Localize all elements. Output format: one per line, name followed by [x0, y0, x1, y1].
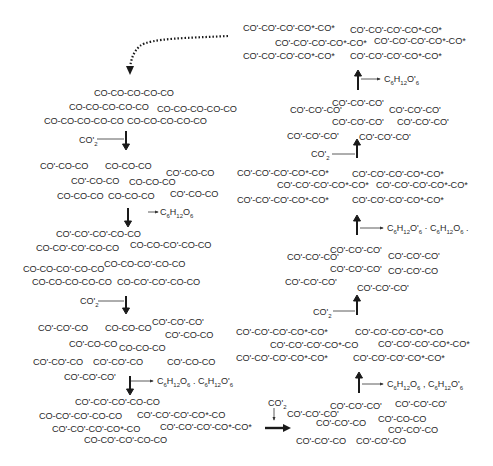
chain: CO'-CO'-CO': [64, 372, 116, 382]
chain: CO-CO-CO: [105, 323, 152, 333]
chain: CO-CO-CO-CO-CO: [32, 277, 112, 287]
chain: CO'-CO'-CO'-CO*-CO*: [378, 339, 470, 349]
chain: CO'-CO-CO: [167, 357, 215, 367]
chain: CO-CO-CO: [108, 191, 155, 201]
product-label: C6H12O6 , C6H12O'6: [387, 379, 463, 393]
chain: CO'-CO'-CO'-CO*-CO: [52, 424, 140, 434]
chain: CO'-CO'-CO: [93, 357, 143, 367]
chain: CO'-CO'-CO'-CO*-CO*: [352, 195, 444, 205]
chain: CO-CO-CO'-CO-CO: [130, 240, 211, 250]
chain: CO'-CO'-CO'-CO*-CO*: [374, 36, 466, 46]
chain: CO'-CO'-CO'-CO*-CO*: [353, 353, 445, 363]
chain: CO'-CO-CO: [378, 414, 426, 424]
chain: CO'-CO'-CO'-CO*-CO*: [236, 327, 328, 337]
chain: CO'-CO'-CO': [395, 399, 447, 409]
chain: CO'-CO'-CO'-CO*-CO: [137, 410, 225, 420]
chain: CO-CO-CO-CO-CO: [94, 88, 174, 98]
chain: CO-CO'-CO'-CO-CO: [36, 243, 119, 253]
chain: CO'-CO-CO: [69, 339, 117, 349]
chain: CO-CO-CO-CO-CO: [157, 104, 237, 114]
chain: CO-CO-CO'-CO-CO: [23, 264, 104, 274]
chain: CO'-CO'-CO: [356, 436, 406, 446]
chain: CO-CO'-CO'-CO-CO: [84, 435, 167, 445]
chain: CO'-CO'-CO': [287, 131, 339, 141]
reagent-label: CO'2: [80, 296, 99, 310]
chain: CO'-CO'-CO'-CO*-CO*: [277, 180, 369, 190]
chain: CO-CO-CO: [57, 191, 104, 201]
reaction-diagram: CO'-CO'-CO'-CO*-CO* CO'-CO'-CO'-CO*-CO* …: [0, 0, 493, 466]
chain: CO-CO-CO'-CO-CO: [104, 259, 185, 269]
chain: CO'-CO'-CO': [285, 277, 337, 287]
reagent-label: CO'2: [79, 135, 98, 149]
reagent-label: CO'2: [313, 307, 332, 321]
chain: CO-CO'-CO'-CO-CO: [117, 277, 200, 287]
product-label: C6H12O'6: [384, 74, 419, 88]
chain: CO'-CO'-CO'-CO*-CO: [355, 327, 443, 337]
chain: CO'-CO'-CO': [290, 105, 342, 115]
chain: CO'-CO-CO: [170, 189, 218, 199]
chain: CO'-CO'-CO'-CO-CO: [56, 229, 141, 239]
chain: CO-CO-CO: [119, 343, 166, 353]
chain: CO'-CO-CO: [165, 330, 213, 340]
chain: CO'-CO'-CO'-CO*-CO*: [352, 169, 444, 179]
chain: CO'-CO'-CO: [388, 266, 438, 276]
product-label: C6H12O6 . C6H12O'6: [157, 376, 233, 390]
chain: CO'-CO'-CO': [388, 251, 440, 261]
chain: CO'-CO'-CO'-CO*-CO*: [237, 195, 329, 205]
chain: CO'-CO'-CO'-CO*-CO*: [350, 51, 442, 61]
dotted-curve-arrow: [130, 36, 228, 68]
chain: CO'-CO'-CO': [287, 252, 339, 262]
chain: CO'-CO'-CO'-CO*-CO*: [376, 180, 468, 190]
chain: CO'-CO'-CO'-CO*-CO*: [275, 38, 367, 48]
chain: CO'-CO'-CO': [152, 317, 204, 327]
chain: CO'-CO'-CO: [38, 323, 88, 333]
chain: CO'-CO'-CO: [316, 418, 366, 428]
reagent-label: CO'2: [268, 398, 287, 412]
product-label: C6H12O6: [160, 207, 193, 221]
chain: CO-CO-CO-CO-CO: [127, 116, 207, 126]
chain: CO'-CO'-CO': [359, 132, 411, 142]
chain: CO'-CO'-CO'-CO*-CO*: [237, 168, 329, 178]
chain: CO'-CO'-CO'-CO*-CO*: [243, 23, 335, 33]
chain: CO-CO-CO-CO-CO: [44, 116, 124, 126]
chain: CO'-CO'-CO: [296, 436, 346, 446]
chain: CO'-CO'-CO': [330, 264, 382, 274]
chain: CO'-CO'-CO: [388, 425, 438, 435]
chain: CO'-CO'-CO': [332, 117, 384, 127]
chain: CO'-CO'-CO'-CO*-CO*: [236, 353, 328, 363]
chain: CO'-CO'-CO'-CO*-CO*: [243, 51, 335, 61]
chain: CO'-CO-CO: [71, 176, 119, 186]
chain: CO-CO'-CO'-CO-CO: [39, 411, 122, 421]
chain: CO'-CO'-CO': [397, 117, 449, 127]
chain: CO'-CO'-CO': [389, 105, 441, 115]
reagent-label: CO'2: [311, 149, 330, 163]
chain: CO'-CO'-CO': [357, 283, 409, 293]
chain: CO'-CO'-CO'-CO*-CO*: [350, 25, 442, 35]
chain: CO'-CO'-CO'-CO*-CO: [270, 340, 358, 350]
chain: CO-CO-CO-CO-CO: [69, 102, 149, 112]
chain: CO'-CO-CO: [40, 161, 88, 171]
product-label: C6H12O'6 · C6H12O6 .: [387, 223, 469, 237]
chain: CO'-CO'-CO: [33, 357, 83, 367]
chain: CO'-CO'-CO'-CO-CO: [75, 397, 160, 407]
chain: CO-CO-CO: [105, 161, 152, 171]
chain: CO-CO-CO: [129, 177, 176, 187]
chain: CO'-CO'-CO'-CO*-CO*: [160, 422, 252, 432]
